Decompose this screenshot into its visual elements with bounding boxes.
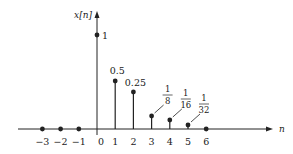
stem-dot <box>204 127 209 132</box>
leader-line <box>173 109 182 117</box>
value-label: 1 <box>102 30 108 41</box>
fraction-numerator: 1 <box>201 93 206 103</box>
stem-dot <box>113 79 118 84</box>
stem-dot <box>149 114 154 119</box>
stem-dot <box>167 118 172 123</box>
fraction-denominator: 32 <box>199 105 210 115</box>
x-tick-label: 3 <box>149 136 155 147</box>
x-axis-label: n <box>279 124 285 134</box>
leader-line <box>155 105 164 113</box>
x-tick-label: 4 <box>167 136 173 147</box>
stem-dot <box>58 127 63 132</box>
stem-plot: nx[n] −3−2−1012345610.50.2518116132 <box>0 0 293 154</box>
fraction-numerator: 1 <box>183 88 188 98</box>
stem-dot <box>186 123 191 128</box>
x-tick-label: 0 <box>98 136 104 147</box>
leader-line <box>191 114 200 122</box>
x-tick-label: −2 <box>54 136 68 147</box>
stem-dot <box>95 33 100 38</box>
value-label: 0.25 <box>125 77 146 88</box>
fraction-denominator: 8 <box>165 96 170 106</box>
fraction-numerator: 1 <box>165 84 170 94</box>
stem-dot <box>40 127 45 132</box>
x-tick-label: 6 <box>203 136 209 147</box>
stem-dot <box>131 90 136 95</box>
x-tick-label: −1 <box>72 136 86 147</box>
x-axis-arrow-icon <box>266 127 273 132</box>
stem-dot <box>76 127 81 132</box>
fraction-denominator: 16 <box>180 100 191 110</box>
x-tick-label: 5 <box>185 136 191 147</box>
x-tick-label: 2 <box>130 136 136 147</box>
y-axis-arrow-icon <box>95 11 100 18</box>
value-label: 0.5 <box>110 65 125 76</box>
x-tick-label: −3 <box>35 136 49 147</box>
y-axis-label: x[n] <box>74 10 92 20</box>
x-tick-label: 1 <box>112 136 118 147</box>
